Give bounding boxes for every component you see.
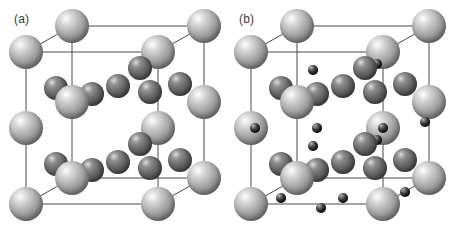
atom-b bbox=[138, 156, 162, 180]
atom-c bbox=[420, 117, 430, 127]
atom-b bbox=[106, 150, 130, 174]
atom-a bbox=[280, 9, 314, 43]
atom-a bbox=[280, 85, 314, 119]
crystal-structure-figure: (a) (b) bbox=[0, 0, 451, 246]
atom-b bbox=[106, 74, 130, 98]
atom-b bbox=[363, 80, 387, 104]
atom-b bbox=[128, 56, 152, 80]
atom-a bbox=[9, 35, 43, 69]
atom-c bbox=[316, 203, 326, 213]
atom-c bbox=[276, 193, 286, 203]
atom-a bbox=[187, 161, 221, 195]
atom-c bbox=[308, 141, 318, 151]
atom-b bbox=[331, 150, 355, 174]
atom-a bbox=[55, 85, 89, 119]
atom-a bbox=[55, 9, 89, 43]
atom-a bbox=[187, 9, 221, 43]
atom-a bbox=[412, 9, 446, 43]
atom-a bbox=[412, 85, 446, 119]
atom-c bbox=[378, 123, 388, 133]
atom-c bbox=[250, 123, 260, 133]
atom-c bbox=[338, 193, 348, 203]
atom-b bbox=[353, 56, 377, 80]
atom-a bbox=[55, 161, 89, 195]
atom-b bbox=[363, 156, 387, 180]
atom-a bbox=[412, 161, 446, 195]
atom-a bbox=[9, 111, 43, 145]
atom-a bbox=[280, 161, 314, 195]
atom-a bbox=[141, 187, 175, 221]
atom-c bbox=[312, 123, 322, 133]
panel-b: (b) bbox=[225, 0, 451, 246]
atom-c bbox=[400, 187, 410, 197]
atom-a bbox=[366, 187, 400, 221]
atom-a bbox=[9, 187, 43, 221]
atom-b bbox=[353, 132, 377, 156]
atom-c bbox=[308, 65, 318, 75]
panel-a: (a) bbox=[0, 0, 226, 246]
atom-a bbox=[187, 85, 221, 119]
atom-a bbox=[234, 187, 268, 221]
atom-a bbox=[234, 35, 268, 69]
atom-b bbox=[138, 80, 162, 104]
atom-b bbox=[128, 132, 152, 156]
atom-b bbox=[331, 74, 355, 98]
